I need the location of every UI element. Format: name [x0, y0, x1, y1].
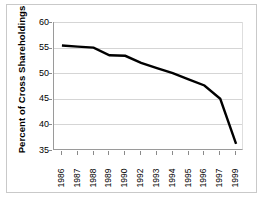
x-axis-tick-mark: [93, 151, 94, 155]
y-axis-title: Percent of Cross Shareholdings: [16, 5, 27, 155]
y-axis-tick-label: 40: [29, 120, 49, 129]
y-axis-tick-label: 50: [29, 69, 49, 78]
x-axis-tick-mark: [172, 151, 173, 155]
y-axis-tick-label: 55: [29, 43, 49, 52]
y-axis-tick-mark: [49, 124, 52, 125]
y-axis-tick-mark: [49, 99, 52, 100]
y-axis-tick-label: 45: [29, 94, 49, 103]
x-axis-tick-labels: 1986198719881989199019921993199419951996…: [53, 151, 243, 195]
x-axis-tick-mark: [235, 151, 236, 155]
x-axis-tick-label: 1999: [230, 157, 240, 199]
x-axis-tick-label: 1989: [103, 157, 113, 199]
x-axis-tick-mark: [61, 151, 62, 155]
chart-figure: Percent of Cross Shareholdings 605550454…: [0, 0, 263, 201]
y-axis-tick-labels: 605550454035: [27, 22, 49, 150]
x-axis-tick-mark: [124, 151, 125, 155]
x-axis-tick-mark: [77, 151, 78, 155]
line-chart-svg: [54, 22, 244, 150]
x-axis-tick-label: 1988: [88, 157, 98, 199]
x-axis-tick-label: 1996: [198, 157, 208, 199]
x-axis-tick-mark: [219, 151, 220, 155]
x-axis-tick-label: 1994: [167, 157, 177, 199]
x-axis-tick-mark: [203, 151, 204, 155]
y-axis-tick-label: 35: [29, 146, 49, 155]
y-axis-tick-label: 60: [29, 18, 49, 27]
x-axis-tick-mark: [140, 151, 141, 155]
x-axis-tick-label: 1997: [214, 157, 224, 199]
x-axis-tick-mark: [156, 151, 157, 155]
x-axis-tick-label: 1990: [119, 157, 129, 199]
x-axis-tick-mark: [108, 151, 109, 155]
plot-area: [53, 22, 243, 150]
x-axis-tick-label: 1987: [72, 157, 82, 199]
y-axis-tick-mark: [49, 150, 52, 151]
x-axis-tick-mark: [188, 151, 189, 155]
y-axis-tick-mark: [49, 48, 52, 49]
y-axis-tick-mark: [49, 22, 52, 23]
data-series-line: [62, 46, 236, 144]
x-axis-tick-label: 1995: [183, 157, 193, 199]
x-axis-tick-label: 1986: [56, 157, 66, 199]
x-axis-tick-label: 1992: [135, 157, 145, 199]
y-axis-tick-mark: [49, 73, 52, 74]
x-axis-tick-label: 1993: [151, 157, 161, 199]
